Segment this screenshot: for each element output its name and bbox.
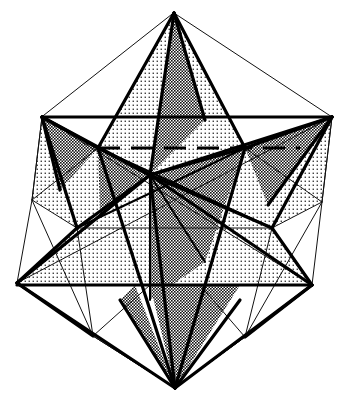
node-inner-lower-left xyxy=(75,226,79,230)
node-inner-lower-right xyxy=(270,226,274,230)
node-center xyxy=(147,172,152,177)
node-inner-right xyxy=(243,146,247,150)
figure-canvas: Stellated polyhedron in icosahedral wire… xyxy=(0,0,351,406)
stellated-polyhedron-drawing: Stellated polyhedron in icosahedral wire… xyxy=(0,0,351,406)
node-inner-left xyxy=(96,146,100,150)
